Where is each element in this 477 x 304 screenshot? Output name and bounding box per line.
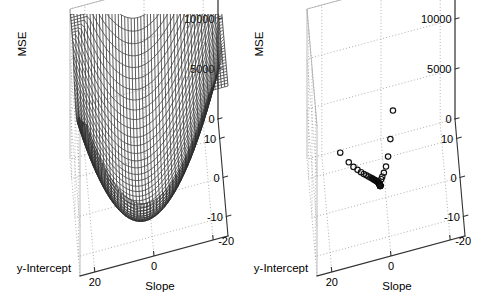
axis-names: MSEy-InterceptSlope [253,31,412,292]
figure-canvas: 050001000015000100-10200-20MSEy-Intercep… [0,0,477,304]
slope-tick-label: -20 [455,235,471,247]
scatter-point [390,108,395,113]
tick-labels: 050001000015000100-10200-20 [326,0,471,288]
y-intercept-tick-label: 0 [450,172,456,184]
slope-tick-label: 20 [89,276,101,288]
slope-tick-mark [331,267,332,272]
slope-axis-label: Slope [145,280,174,292]
slope-tick-mark [450,235,451,240]
mse-tick-mark [455,118,460,119]
slope-axis-label: Slope [382,280,411,292]
y-intercept-tick-label: 0 [213,172,219,184]
y-intercept-tick-label: 10 [204,133,216,145]
mse-tick-mark [455,68,460,69]
grid-line-floor-y [312,178,460,218]
slope-tick-mark [154,251,155,256]
y-intercept-tick-mark [460,176,465,178]
mse-axis-label: MSE [253,31,265,56]
cost-surface [70,0,228,221]
mse-axis-label: MSE [16,31,28,56]
scatter-point [346,160,351,165]
scatter-point [338,150,343,155]
y-intercept-tick-mark [220,137,225,139]
slope-tick-label: 0 [151,260,157,272]
y-intercept-tick-label: -10 [444,211,460,223]
mse-tick-mark [455,18,460,19]
grid-line-floor-y [309,139,457,179]
chart-panel-right: 050001000015000100-10200-20MSEy-Intercep… [237,0,477,304]
y-intercept-tick-mark [457,137,462,139]
slope-tick-label: 0 [388,260,394,272]
scatter-point [383,164,388,169]
y-intercept-axis-label: y-Intercept [254,262,309,274]
y-intercept-tick-mark [223,176,228,178]
scatter-point [385,154,390,159]
mse-tick-label: 0 [445,113,451,125]
y-intercept-axis-label: y-Intercept [17,262,72,274]
mse-tick-mark [218,118,223,119]
grid-lines [307,0,463,276]
chart-panel-left: 050001000015000100-10200-20MSEy-Intercep… [0,0,240,304]
y-intercept-tick-label: 10 [441,133,453,145]
slope-tick-label: -20 [218,235,234,247]
slope-tick-mark [94,267,95,272]
mse-tick-label: 5000 [427,63,451,75]
y-intercept-tick-mark [463,215,468,217]
y-intercept-tick-label: -10 [207,211,223,223]
scatter-plot-svg: 050001000015000100-10200-20MSEy-Intercep… [237,0,477,304]
scatter-point [378,183,383,188]
slope-tick-label: 20 [326,276,338,288]
surface-plot-svg: 050001000015000100-10200-20MSEy-Intercep… [0,0,240,304]
mse-tick-label: 0 [208,113,214,125]
scatter-point [388,136,393,141]
mse-tick-label: 10000 [421,13,452,25]
slope-tick-mark [213,235,214,240]
y-intercept-tick-mark [226,215,231,217]
slope-tick-mark [391,251,392,256]
